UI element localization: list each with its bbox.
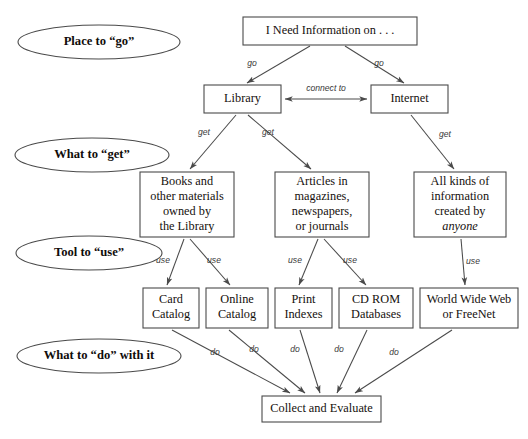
edge-cdrom-to-collect: do	[334, 330, 367, 393]
edge-web-to-collect-line	[355, 330, 452, 393]
edge-library-to-books-label: get	[198, 127, 211, 137]
node-articles-line-3: or journals	[296, 219, 349, 233]
edge-articles-to-cdrom: use	[324, 239, 366, 285]
node-books-materials-line-3: the Library	[160, 219, 216, 233]
edge-need-to-internet-label: go	[374, 58, 384, 68]
node-cd-rom-databases-line-1: Databases	[351, 307, 401, 321]
edge-print-to-collect-line	[300, 330, 320, 393]
node-books-materials-line-0: Books and	[161, 174, 213, 188]
node-online-catalog-line-1: Catalog	[218, 307, 256, 321]
edge-library-internet: connect to	[285, 83, 367, 99]
edge-library-to-articles-line	[248, 115, 311, 169]
edge-need-to-internet: go	[345, 46, 404, 83]
node-cd-rom-databases-line-0: CD ROM	[352, 292, 400, 306]
edge-web-to-collect-label: do	[389, 347, 399, 357]
node-books-materials-line-2: owned by	[163, 204, 212, 218]
node-print-indexes: PrintIndexes	[275, 288, 332, 328]
node-card-catalog-line-0: Card	[159, 292, 183, 306]
edge-cdrom-to-collect-line	[337, 330, 367, 393]
edge-online-to-collect: do	[229, 330, 305, 393]
edge-card-to-collect-line	[172, 330, 290, 393]
node-all-kinds-info-line-0: All kinds of	[431, 174, 491, 188]
node-internet: Internet	[371, 85, 448, 113]
node-online-catalog: OnlineCatalog	[206, 288, 268, 328]
edge-card-to-collect: do	[172, 330, 290, 393]
node-books-materials: Books andother materialsowned bythe Libr…	[140, 172, 234, 237]
edge-library-to-articles-label: get	[262, 127, 275, 137]
edge-library-to-books: get	[190, 115, 236, 169]
edge-need-to-library-label: go	[247, 58, 257, 68]
stage-place-to-go-label: Place to “go”	[64, 34, 135, 48]
edge-allkinds-to-web-line	[461, 239, 465, 285]
edge-books-to-card: use	[156, 239, 184, 285]
node-all-kinds-info-line-1: information	[431, 189, 489, 203]
stage-what-to-do-label: What to “do” with it	[44, 348, 155, 362]
node-need-information-line-0: I Need Information on . . .	[266, 23, 395, 37]
stage-place-to-go: Place to “go”	[18, 25, 180, 59]
edge-online-to-collect-label: do	[249, 344, 259, 354]
edge-print-to-collect-label: do	[290, 344, 300, 354]
edge-cdrom-to-collect-label: do	[334, 344, 344, 354]
edge-allkinds-to-web-label: use	[466, 256, 480, 266]
edge-card-to-collect-label: do	[210, 347, 220, 357]
node-all-kinds-info-line-3: anyone	[442, 219, 478, 233]
node-all-kinds-info: All kinds ofinformationcreated byanyone	[414, 172, 506, 237]
edge-need-to-library: go	[247, 46, 310, 83]
node-all-kinds-info-line-2: created by	[435, 204, 487, 218]
edge-internet-to-allkinds: get	[411, 115, 454, 169]
node-need-information: I Need Information on . . .	[243, 17, 417, 45]
node-world-wide-web: World Wide Webor FreeNet	[420, 288, 518, 328]
edge-allkinds-to-web: use	[461, 239, 480, 285]
stage-what-to-get: What to “get”	[15, 138, 169, 172]
stage-tool-to-use-label: Tool to “use”	[54, 245, 124, 259]
edge-articles-to-cdrom-label: use	[343, 255, 357, 265]
node-articles: Articles inmagazines,newspapers,or journ…	[275, 172, 369, 237]
edge-internet-to-allkinds-line	[411, 115, 454, 169]
nodes-layer: I Need Information on . . .LibraryIntern…	[140, 17, 518, 422]
node-card-catalog: CardCatalog	[143, 288, 199, 328]
node-articles-line-2: newspapers,	[292, 204, 352, 218]
node-articles-line-0: Articles in	[296, 174, 348, 188]
node-library: Library	[204, 85, 281, 113]
edge-books-to-online-label: use	[207, 255, 221, 265]
node-collect-evaluate-line-0: Collect and Evaluate	[270, 401, 373, 415]
edge-print-to-collect: do	[290, 330, 320, 393]
edge-library-to-books-line	[190, 115, 236, 169]
edge-web-to-collect: do	[355, 330, 452, 393]
flowchart-canvas: gogoconnect togetgetgetuseuseuseuseusedo…	[0, 0, 528, 439]
node-online-catalog-line-0: Online	[220, 292, 254, 306]
node-card-catalog-line-1: Catalog	[152, 307, 190, 321]
node-print-indexes-line-0: Print	[292, 292, 316, 306]
node-internet-line-0: Internet	[390, 91, 429, 105]
stage-what-to-get-label: What to “get”	[54, 147, 130, 161]
node-cd-rom-databases: CD ROMDatabases	[339, 288, 413, 328]
node-collect-evaluate: Collect and Evaluate	[262, 396, 381, 422]
node-articles-line-1: magazines,	[295, 189, 350, 203]
edge-books-to-online: use	[190, 239, 230, 285]
edge-articles-to-print: use	[288, 239, 318, 285]
node-world-wide-web-line-1: or FreeNet	[443, 307, 497, 321]
edge-internet-to-allkinds-label: get	[439, 129, 452, 139]
node-print-indexes-line-1: Indexes	[284, 307, 322, 321]
node-world-wide-web-line-0: World Wide Web	[427, 292, 512, 306]
stage-what-to-do: What to “do” with it	[17, 339, 181, 373]
node-library-line-0: Library	[224, 91, 262, 105]
information-research-flowchart: gogoconnect togetgetgetuseuseuseuseusedo…	[0, 0, 528, 439]
edge-library-to-articles: get	[248, 115, 311, 169]
edge-library-internet-label: connect to	[306, 83, 346, 93]
edge-articles-to-print-label: use	[288, 255, 302, 265]
stage-tool-to-use: Tool to “use”	[16, 236, 162, 270]
node-books-materials-line-1: other materials	[150, 189, 224, 203]
edge-online-to-collect-line	[229, 330, 305, 393]
